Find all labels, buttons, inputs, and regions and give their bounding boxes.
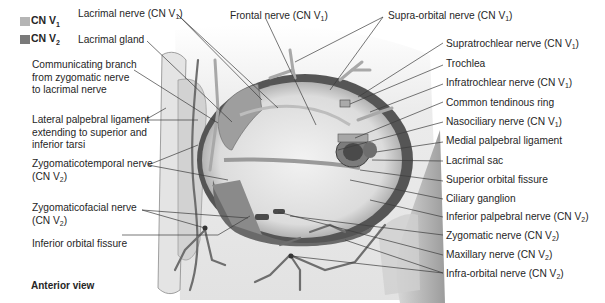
label-supra-orbital-nerve: Supra-orbital nerve (CN V1) [388,10,513,23]
label-common-tendinous-ring: Common tendinous ring [446,97,554,110]
label-zygomaticofacial-nerve: Zygomaticofacial nerve (CN V2) [32,202,137,227]
label-infratrochlear-nerve: Infratrochlear nerve (CN V1) [446,77,572,90]
legend-item-cn-v1: CN V1 [20,14,60,28]
label-supratrochlear-nerve: Supratrochlear nerve (CN V1) [446,38,579,51]
label-nasociliary-nerve: Nasociliary nerve (CN V1) [446,116,562,129]
label-lacrimal-nerve: Lacrimal nerve (CN V1) [78,8,183,21]
label-maxillary-nerve: Maxillary nerve (CN V2) [446,249,552,262]
view-label: Anterior view [31,280,94,293]
label-communicating-branch: Communicating branch from zygomatic nerv… [32,59,137,97]
label-inferior-palpebral-nerve: Inferior palpebral nerve (CN V2) [446,211,589,224]
label-ciliary-ganglion: Ciliary ganglion [446,193,516,206]
label-superior-orbital-fissure: Superior orbital fissure [446,174,548,187]
label-frontal-nerve: Frontal nerve (CN V1) [230,10,328,23]
cn-v1-swatch-icon [20,17,30,26]
legend-label: CN V2 [31,32,60,46]
legend-item-cn-v2: CN V2 [20,32,60,46]
label-zygomaticotemporal-nerve: Zygomaticotemporal nerve (CN V2) [32,158,153,183]
label-trochlea: Trochlea [446,58,485,71]
label-lacrimal-sac: Lacrimal sac [446,155,503,168]
label-lateral-palpebral-ligament: Lateral palpebral ligament extending to … [32,114,149,152]
label-medial-palpebral-ligament: Medial palpebral ligament [446,135,562,148]
orbit-nerve-diagram: CN V1 CN V2 Lacrimal nerve (CN V1) Lacri… [0,0,605,303]
label-infra-orbital-nerve: Infra-orbital nerve (CN V2) [446,268,564,281]
cn-v2-swatch-icon [20,35,30,44]
legend-label: CN V1 [31,14,60,28]
label-lacrimal-gland: Lacrimal gland [78,34,144,47]
label-zygomatic-nerve: Zygomatic nerve (CN V2) [446,230,559,243]
label-inferior-orbital-fissure: Inferior orbital fissure [32,238,127,251]
